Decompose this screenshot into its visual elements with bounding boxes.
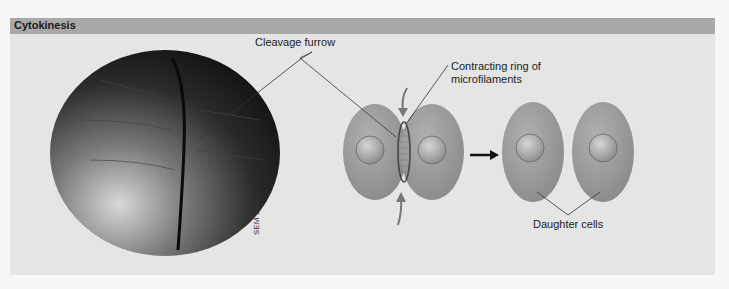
right-arrow-icon xyxy=(470,150,499,160)
label-daughter-cells: Daughter cells xyxy=(533,218,603,231)
label-cleavage-furrow: Cleavage furrow xyxy=(255,36,335,49)
cytokinesis-illustration xyxy=(0,0,729,289)
label-magnification: SEM 113× xyxy=(252,198,261,235)
label-contracting-ring-2: microfilaments xyxy=(451,73,522,86)
daughter-cells xyxy=(502,102,634,202)
label-contracting-ring-1: Contracting ring of xyxy=(451,60,541,73)
sem-micrograph xyxy=(50,50,280,256)
up-arrow-icon xyxy=(398,198,401,225)
